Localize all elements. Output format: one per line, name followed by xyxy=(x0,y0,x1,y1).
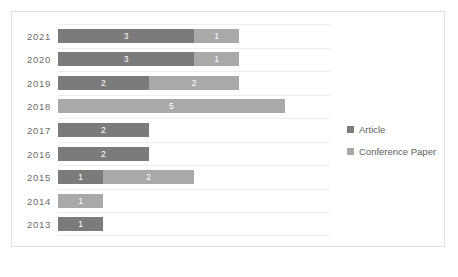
bar-segment: 2 xyxy=(58,76,149,90)
category-label-2013: 2013 xyxy=(27,219,51,230)
bar-value-label: 5 xyxy=(169,101,174,111)
stacked-bar: 2 xyxy=(58,123,149,137)
gridline xyxy=(58,24,330,25)
bar-segment: 3 xyxy=(58,29,194,43)
gridline xyxy=(58,118,330,119)
bar-segment: 2 xyxy=(103,170,194,184)
bar-segment: 5 xyxy=(58,99,285,113)
legend-swatch-icon xyxy=(347,148,354,155)
category-label-2021: 2021 xyxy=(27,30,51,41)
bar-segment: 1 xyxy=(58,170,103,184)
category-label-2019: 2019 xyxy=(27,77,51,88)
gridline xyxy=(58,235,330,236)
bar-value-label: 3 xyxy=(124,54,129,64)
bar-segment: 1 xyxy=(194,29,239,43)
legend-label: Conference Paper xyxy=(359,146,436,157)
stacked-bar: 12 xyxy=(58,170,194,184)
gridline xyxy=(58,165,330,166)
stacked-bar: 22 xyxy=(58,76,239,90)
bar-segment: 3 xyxy=(58,52,194,66)
stacked-bar: 1 xyxy=(58,217,103,231)
plot-area: 2021312020312019222018520172201622015122… xyxy=(58,24,330,236)
gridline xyxy=(58,212,330,213)
chart-category-row: 20185 xyxy=(58,95,330,119)
category-label-2020: 2020 xyxy=(27,54,51,65)
gridline xyxy=(58,71,330,72)
bar-value-label: 1 xyxy=(78,172,83,182)
stacked-bar: 5 xyxy=(58,99,285,113)
bar-value-label: 2 xyxy=(146,172,151,182)
category-label-2017: 2017 xyxy=(27,124,51,135)
chart-category-row: 202031 xyxy=(58,48,330,72)
chart-legend: ArticleConference Paper xyxy=(347,124,442,168)
chart-category-row: 201512 xyxy=(58,165,330,189)
legend-item[interactable]: Conference Paper xyxy=(347,146,442,157)
bar-value-label: 3 xyxy=(124,31,129,41)
bar-value-label: 2 xyxy=(101,149,106,159)
chart-category-row: 20141 xyxy=(58,189,330,213)
bar-segment: 1 xyxy=(58,194,103,208)
chart-category-row: 20172 xyxy=(58,118,330,142)
stacked-bar: 31 xyxy=(58,29,239,43)
category-label-2018: 2018 xyxy=(27,101,51,112)
stacked-bar: 1 xyxy=(58,194,103,208)
gridline xyxy=(58,189,330,190)
bar-value-label: 1 xyxy=(214,31,219,41)
bar-segment: 1 xyxy=(58,217,103,231)
gridline xyxy=(58,142,330,143)
bar-value-label: 2 xyxy=(101,78,106,88)
bar-value-label: 1 xyxy=(214,54,219,64)
stacked-bar: 2 xyxy=(58,147,149,161)
chart-category-row: 20162 xyxy=(58,142,330,166)
chart-category-row: 20131 xyxy=(58,212,330,236)
bar-value-label: 2 xyxy=(101,125,106,135)
bar-value-label: 1 xyxy=(78,219,83,229)
chart-category-row: 202131 xyxy=(58,24,330,48)
bar-value-label: 2 xyxy=(192,78,197,88)
category-label-2014: 2014 xyxy=(27,195,51,206)
category-label-2016: 2016 xyxy=(27,148,51,159)
bar-segment: 2 xyxy=(58,123,149,137)
chart-category-row: 201922 xyxy=(58,71,330,95)
gridline xyxy=(58,48,330,49)
bar-value-label: 1 xyxy=(78,196,83,206)
bar-segment: 1 xyxy=(194,52,239,66)
gridline xyxy=(58,95,330,96)
legend-item[interactable]: Article xyxy=(347,124,442,135)
category-label-2015: 2015 xyxy=(27,172,51,183)
legend-label: Article xyxy=(359,124,385,135)
chart-frame: 2021312020312019222018520172201622015122… xyxy=(11,11,445,247)
stacked-bar: 31 xyxy=(58,52,239,66)
bar-segment: 2 xyxy=(149,76,240,90)
legend-swatch-icon xyxy=(347,126,354,133)
bar-segment: 2 xyxy=(58,147,149,161)
